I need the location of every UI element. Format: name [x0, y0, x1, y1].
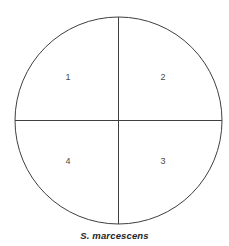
quadrant-label-1: 1 [60, 73, 76, 82]
petri-plate-diagram [0, 0, 229, 246]
quadrant-label-2: 2 [155, 73, 171, 82]
figure-container: 1 2 3 4 S. marcescens [0, 0, 229, 246]
quadrant-label-4: 4 [60, 157, 76, 166]
quadrant-label-3: 3 [155, 157, 171, 166]
figure-caption: S. marcescens [0, 231, 229, 241]
